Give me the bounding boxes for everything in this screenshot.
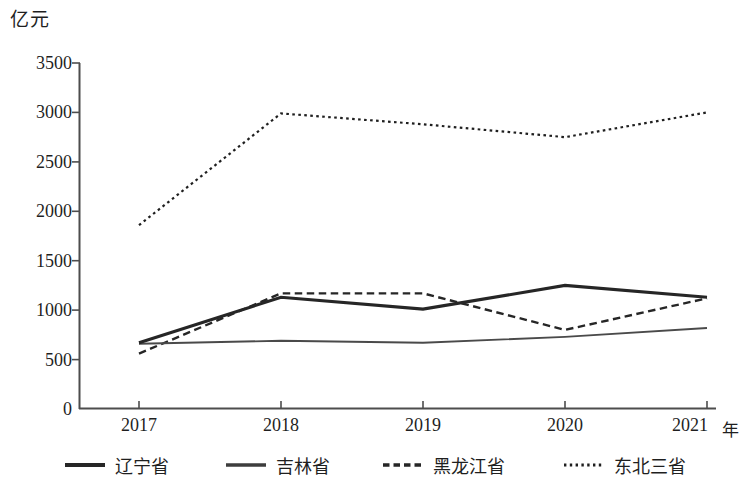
legend-swatch-solid-thick-icon: [64, 458, 106, 472]
legend-item-heilongjiang: 黑龙江省: [382, 452, 505, 478]
legend-swatch-solid-thin-icon: [225, 458, 267, 472]
data-series-group: [139, 112, 707, 353]
series-line-heilongjiang: [139, 293, 707, 353]
chart-legend: 辽宁省 吉林省 黑龙江省 东北三省: [0, 452, 748, 478]
legend-label-liaoning: 辽宁省: [115, 452, 169, 478]
legend-label-jilin: 吉林省: [276, 452, 330, 478]
legend-swatch-dotted-icon: [563, 458, 605, 472]
series-line-northeast-three-provinces: [139, 112, 707, 225]
legend-item-northeast-three-provinces: 东北三省: [563, 452, 686, 478]
axis-lines: [79, 63, 716, 409]
legend-label-northeast-three-provinces: 东北三省: [614, 452, 686, 478]
line-chart: 亿元 年 0 500 1000 1500 2000 2500 3000 3500…: [0, 0, 748, 478]
legend-label-heilongjiang: 黑龙江省: [433, 452, 505, 478]
legend-swatch-dashed-icon: [382, 458, 424, 472]
legend-item-liaoning: 辽宁省: [64, 452, 169, 478]
legend-item-jilin: 吉林省: [225, 452, 330, 478]
plot-area: [0, 0, 748, 478]
series-line-jilin: [139, 328, 707, 344]
